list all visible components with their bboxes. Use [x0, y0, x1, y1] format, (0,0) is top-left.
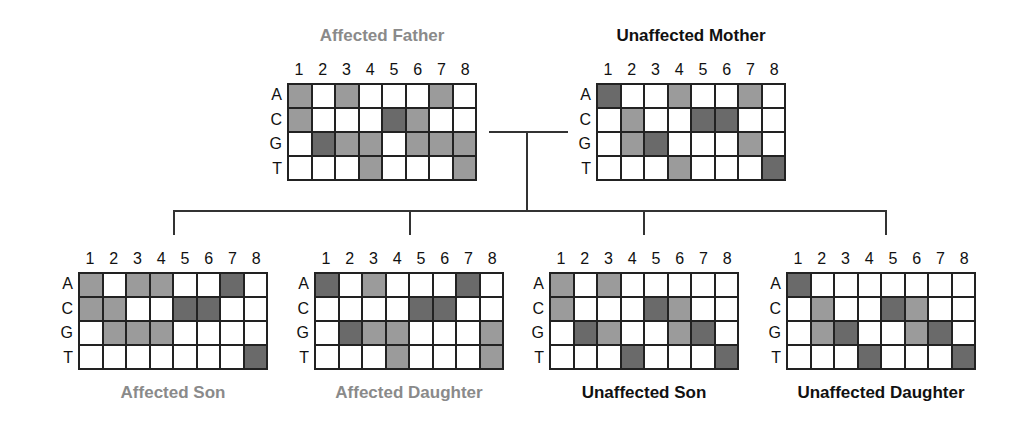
cell-c-3	[336, 109, 358, 131]
row-label-t: T	[765, 346, 781, 371]
sibship-line	[173, 210, 887, 212]
row-label-a: A	[57, 272, 73, 297]
cell-g-5	[383, 133, 405, 155]
cell-t-3	[598, 346, 620, 368]
cell-c-3	[835, 298, 857, 320]
cell-c-7	[929, 298, 951, 320]
column-number: 8	[952, 250, 976, 268]
column-number: 4	[385, 250, 409, 268]
row-label-g: G	[293, 321, 309, 346]
cell-a-7	[692, 274, 714, 296]
cell-g-8	[716, 322, 738, 344]
cell-g-2	[622, 133, 644, 155]
cell-t-3	[336, 157, 358, 179]
cell-g-1	[788, 322, 810, 344]
cell-c-7	[457, 298, 479, 320]
column-number: 3	[644, 61, 668, 79]
column-numbers: 12345678	[287, 61, 477, 79]
cell-a-4	[859, 274, 881, 296]
unaffected-son-sequence-grid	[549, 272, 739, 370]
cell-g-4	[387, 322, 409, 344]
cell-c-5	[882, 298, 904, 320]
cell-g-5	[174, 322, 196, 344]
column-number: 2	[573, 250, 597, 268]
cell-t-2	[313, 157, 335, 179]
cell-t-3	[127, 346, 149, 368]
column-number: 6	[433, 250, 457, 268]
cell-a-2	[622, 85, 644, 107]
row-label-a: A	[266, 83, 282, 108]
column-number: 3	[362, 250, 386, 268]
column-number: 7	[692, 250, 716, 268]
row-label-t: T	[293, 346, 309, 371]
cell-g-4	[360, 133, 382, 155]
cell-t-8	[953, 346, 975, 368]
cell-a-3	[363, 274, 385, 296]
cell-a-4	[669, 85, 691, 107]
cell-t-8	[245, 346, 267, 368]
cell-c-6	[669, 298, 691, 320]
cell-g-1	[598, 133, 620, 155]
column-number: 3	[335, 61, 359, 79]
cell-t-4	[669, 157, 691, 179]
marriage-line	[489, 131, 568, 133]
cell-c-5	[383, 109, 405, 131]
cell-a-1	[551, 274, 573, 296]
cell-a-2	[104, 274, 126, 296]
cell-g-6	[669, 322, 691, 344]
cell-a-2	[340, 274, 362, 296]
cell-g-3	[835, 322, 857, 344]
row-label-a: A	[293, 272, 309, 297]
cell-c-3	[598, 298, 620, 320]
column-number: 5	[173, 250, 197, 268]
cell-t-7	[929, 346, 951, 368]
cell-g-4	[669, 133, 691, 155]
cell-t-5	[410, 346, 432, 368]
column-number: 5	[691, 61, 715, 79]
cell-t-1	[289, 157, 311, 179]
cell-a-5	[645, 274, 667, 296]
row-label-t: T	[575, 157, 591, 182]
column-number: 1	[549, 250, 573, 268]
cell-g-8	[953, 322, 975, 344]
cell-g-2	[340, 322, 362, 344]
column-number: 4	[857, 250, 881, 268]
cell-g-5	[645, 322, 667, 344]
column-number: 8	[480, 250, 504, 268]
cell-a-8	[953, 274, 975, 296]
cell-t-8	[716, 346, 738, 368]
cell-c-4	[669, 109, 691, 131]
father-title: Affected Father	[320, 26, 445, 46]
cell-t-4	[859, 346, 881, 368]
cell-t-2	[104, 346, 126, 368]
column-numbers: 12345678	[78, 250, 268, 268]
cell-a-2	[575, 274, 597, 296]
cell-g-1	[316, 322, 338, 344]
column-number: 2	[311, 61, 335, 79]
cell-g-8	[763, 133, 785, 155]
drop-line-affected-son	[173, 210, 175, 235]
cell-a-6	[906, 274, 928, 296]
cell-t-6	[669, 346, 691, 368]
cell-g-7	[430, 133, 452, 155]
cell-t-5	[174, 346, 196, 368]
cell-c-3	[645, 109, 667, 131]
row-label-c: C	[528, 297, 544, 322]
column-number: 3	[126, 250, 150, 268]
row-label-a: A	[765, 272, 781, 297]
row-label-g: G	[266, 132, 282, 157]
cell-a-1	[80, 274, 102, 296]
cell-a-4	[151, 274, 173, 296]
cell-a-6	[407, 85, 429, 107]
row-labels: ACGT	[765, 272, 781, 370]
column-number: 2	[620, 61, 644, 79]
cell-g-3	[127, 322, 149, 344]
cell-t-8	[454, 157, 476, 179]
cell-a-1	[788, 274, 810, 296]
row-label-g: G	[765, 321, 781, 346]
cell-c-4	[151, 298, 173, 320]
column-number: 6	[905, 250, 929, 268]
column-number: 3	[834, 250, 858, 268]
cell-g-6	[198, 322, 220, 344]
cell-g-6	[716, 133, 738, 155]
